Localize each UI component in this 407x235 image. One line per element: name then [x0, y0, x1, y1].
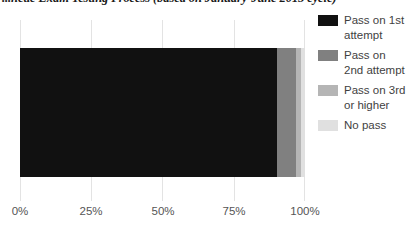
chart-title: ...hetic Exam Testing Process (based on … — [2, 0, 407, 5]
chart-legend: Pass on 1st attempt Pass on 2nd attempt … — [318, 13, 407, 139]
legend-item-pass-1st[interactable]: Pass on 1st attempt — [318, 13, 407, 42]
legend-item-pass-2nd[interactable]: Pass on 2nd attempt — [318, 48, 407, 77]
x-tick-label-100: 100% — [290, 205, 319, 218]
x-tick-label-0: 0% — [12, 205, 29, 218]
bar-segment-no-pass[interactable] — [301, 48, 305, 177]
legend-item-label: No pass — [344, 118, 406, 133]
stacked-bar[interactable] — [20, 48, 305, 177]
chart-container: ...hetic Exam Testing Process (based on … — [0, 0, 407, 235]
legend-swatch-icon — [318, 120, 338, 131]
bar-segment-pass-2nd[interactable] — [277, 48, 297, 177]
legend-item-label: Pass on 1st attempt — [344, 13, 406, 42]
x-tick-label-25: 25% — [79, 205, 102, 218]
x-tick-label-50: 50% — [151, 205, 174, 218]
legend-item-label: Pass on 3rd or higher — [344, 83, 406, 112]
legend-swatch-icon — [318, 85, 338, 96]
bar-segment-pass-1st[interactable] — [20, 48, 277, 177]
legend-swatch-icon — [318, 15, 338, 26]
legend-item-label: Pass on 2nd attempt — [344, 48, 406, 77]
legend-item-no-pass[interactable]: No pass — [318, 118, 407, 133]
legend-item-pass-3rd-higher[interactable]: Pass on 3rd or higher — [318, 83, 407, 112]
x-tick-label-75: 75% — [222, 205, 245, 218]
legend-swatch-icon — [318, 50, 338, 61]
